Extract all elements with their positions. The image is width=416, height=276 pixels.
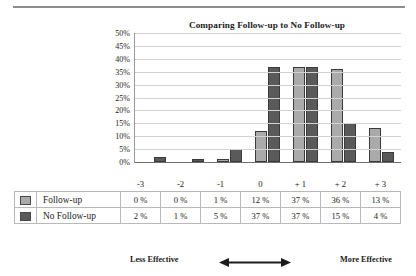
table-value-cell: 15 % bbox=[321, 208, 361, 224]
x-axis-category-label: 0 bbox=[241, 176, 281, 192]
y-axis-tick-label: 20% bbox=[115, 106, 130, 115]
table-corner-cell bbox=[15, 176, 37, 192]
legend-series-label: No Follow-up bbox=[37, 208, 121, 224]
table-row: Follow-up0 %0 %1 %12 %37 %36 %13 % bbox=[15, 192, 401, 208]
table-value-cell: 36 % bbox=[321, 192, 361, 208]
data-table-body: -3-2-10+ 1+ 2+ 3Follow-up0 %0 %1 %12 %37… bbox=[15, 176, 401, 224]
table-row: No Follow-up2 %1 %5 %37 %37 %15 %4 % bbox=[15, 208, 401, 224]
gridline bbox=[135, 33, 401, 34]
gridline bbox=[135, 123, 401, 124]
x-axis-category-label: + 2 bbox=[321, 176, 361, 192]
bar bbox=[306, 67, 318, 162]
table-value-cell: 5 % bbox=[201, 208, 241, 224]
legend-swatch-icon bbox=[20, 212, 31, 221]
x-axis-category-label: + 1 bbox=[281, 176, 321, 192]
gridline bbox=[135, 98, 401, 99]
double-headed-arrow-icon bbox=[219, 257, 291, 268]
gridline bbox=[135, 110, 401, 111]
y-axis-tick-label: 15% bbox=[115, 119, 130, 128]
bar bbox=[382, 152, 394, 162]
x-axis-category-label: -2 bbox=[161, 176, 201, 192]
table-value-cell: 12 % bbox=[241, 192, 281, 208]
legend-swatch-cell bbox=[15, 208, 37, 224]
y-axis-tick-label: 10% bbox=[115, 132, 130, 141]
table-value-cell: 1 % bbox=[161, 208, 201, 224]
table-value-cell: 0 % bbox=[161, 192, 201, 208]
x-axis-category-label: + 3 bbox=[361, 176, 401, 192]
table-value-cell: 1 % bbox=[201, 192, 241, 208]
y-axis-tick-label: 40% bbox=[115, 54, 130, 63]
x-axis-category-label: -3 bbox=[121, 176, 161, 192]
y-axis-tick-label: 45% bbox=[115, 41, 130, 50]
gridline bbox=[135, 149, 401, 150]
bar bbox=[268, 67, 280, 162]
bar bbox=[369, 128, 381, 162]
y-axis-tick-label: 0% bbox=[119, 158, 130, 167]
y-axis-tick-label: 30% bbox=[115, 80, 130, 89]
chart-figure: Comparing Follow-up to No Follow-up 50%4… bbox=[0, 14, 416, 264]
table-value-cell: 37 % bbox=[281, 208, 321, 224]
y-axis-tick-label: 5% bbox=[119, 145, 130, 154]
bar bbox=[217, 159, 229, 162]
table-value-cell: 13 % bbox=[361, 192, 401, 208]
gridline bbox=[135, 85, 401, 86]
legend-swatch-icon bbox=[20, 196, 31, 205]
more-effective-label: More Effective bbox=[340, 255, 392, 264]
gridline bbox=[135, 72, 401, 73]
y-axis-tick-label: 25% bbox=[115, 93, 130, 102]
plot-area-wrapper: 50%45%40%35%30%25%20%15%10%5%0% bbox=[98, 33, 401, 176]
table-value-cell: 4 % bbox=[361, 208, 401, 224]
x-axis-category-label: -1 bbox=[201, 176, 241, 192]
table-header-row: -3-2-10+ 1+ 2+ 3 bbox=[15, 176, 401, 192]
bar bbox=[192, 159, 204, 162]
y-axis-tick-label: 50% bbox=[115, 29, 130, 38]
bar bbox=[331, 69, 343, 162]
table-corner-cell bbox=[37, 176, 121, 192]
table-value-cell: 37 % bbox=[281, 192, 321, 208]
bar bbox=[230, 149, 242, 162]
bar bbox=[344, 123, 356, 162]
table-value-cell: 0 % bbox=[121, 192, 161, 208]
table-value-cell: 37 % bbox=[241, 208, 281, 224]
bar bbox=[293, 67, 305, 162]
table-value-cell: 2 % bbox=[121, 208, 161, 224]
top-divider-rule bbox=[13, 6, 405, 8]
gridline bbox=[135, 59, 401, 60]
data-table: -3-2-10+ 1+ 2+ 3Follow-up0 %0 %1 %12 %37… bbox=[14, 176, 401, 224]
plot-area bbox=[134, 33, 401, 163]
legend-series-label: Follow-up bbox=[37, 192, 121, 208]
gridline bbox=[135, 136, 401, 137]
gridline bbox=[135, 46, 401, 47]
bar bbox=[154, 157, 166, 162]
y-axis: 50%45%40%35%30%25%20%15%10%5%0% bbox=[98, 33, 132, 162]
chart-title: Comparing Follow-up to No Follow-up bbox=[132, 20, 402, 30]
y-axis-tick-label: 35% bbox=[115, 67, 130, 76]
less-effective-label: Less Effective bbox=[130, 255, 178, 264]
effectiveness-scale-annotation: Less Effective More Effective bbox=[0, 249, 416, 276]
legend-swatch-cell bbox=[15, 192, 37, 208]
